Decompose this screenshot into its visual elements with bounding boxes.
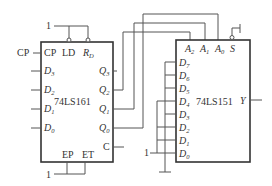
counter-74ls161: 74LS161 1 LD RD CP CP D3 D2 D1 D0 Q3 Q2 (17, 20, 124, 180)
rd-inversion-bubble (86, 38, 90, 42)
counter-chip-label: 74LS161 (54, 96, 91, 107)
ld-inversion-bubble (67, 38, 71, 42)
strobe-wire (232, 28, 240, 36)
ld-pin-label: LD (62, 47, 75, 58)
mux-input-constant: 1 (144, 147, 149, 158)
mux-strobe-label: S (230, 43, 235, 54)
circuit-diagram: 74LS161 1 LD RD CP CP D3 D2 D1 D0 Q3 Q2 (0, 0, 272, 186)
carry-pin-label: C (103, 141, 110, 152)
mux-74ls151: 74LS151 A2 A1 A0 S D7 D6 D5 D4 D3 D2 D1 … (144, 24, 262, 172)
mux-chip-label: 74LS151 (196, 96, 233, 107)
clock-input-label: CP (17, 47, 30, 58)
ep-pin-label: EP (62, 149, 74, 160)
clock-pin-label: CP (44, 47, 57, 58)
strobe-inversion-bubble (230, 36, 234, 40)
counter-top-constant: 1 (46, 20, 51, 31)
et-pin-label: ET (82, 149, 94, 160)
counter-bottom-constant: 1 (46, 169, 51, 180)
